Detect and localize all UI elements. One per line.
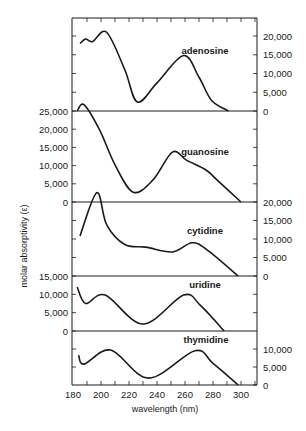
y-tick-label: 15,000 [263, 49, 292, 60]
y-tick-label: 15,000 [39, 271, 68, 282]
y-tick-label: 0 [263, 271, 268, 282]
spectrum-curve-adenosine [80, 31, 228, 111]
curve-label-cytidine: cytidine [187, 225, 223, 236]
curve-label-guanosine: guanosine [181, 146, 229, 157]
spectra-panels: 05,00010,00015,00020,000adenosine05,0001… [39, 31, 292, 391]
y-tick-label: 10,000 [39, 289, 68, 300]
y-tick-label: 20,000 [263, 31, 292, 42]
x-axis: 180200220240260280300 [65, 381, 255, 400]
x-tick-label: 260 [177, 389, 193, 400]
x-axis-title: wavelength (nm) [131, 404, 199, 414]
x-tick-label: 240 [149, 389, 165, 400]
y-tick-label: 10,000 [263, 234, 292, 245]
y-tick-label: 0 [63, 197, 68, 208]
panel-adenosine: 05,00010,00015,00020,000adenosine [72, 31, 292, 117]
spectrum-curve-thymidine [79, 350, 239, 385]
absorption-spectra-chart: 05,00010,00015,00020,000adenosine05,0001… [0, 0, 306, 431]
y-tick-label: 25,000 [39, 106, 68, 117]
y-tick-label: 10,000 [39, 160, 68, 171]
x-tick-label: 200 [93, 389, 109, 400]
y-tick-label: 10,000 [263, 344, 292, 355]
spectrum-curve-uridine [77, 287, 224, 331]
y-tick-label: 5,000 [263, 252, 287, 263]
y-tick-label: 5,000 [263, 362, 287, 373]
y-tick-label: 0 [263, 380, 268, 391]
y-tick-label: 0 [63, 326, 68, 337]
y-tick-label: 5,000 [44, 307, 68, 318]
curve-label-thymidine: thymidine [184, 334, 229, 345]
y-tick-label: 15,000 [39, 142, 68, 153]
y-axis-title: molar absorptivity (ε) [19, 204, 29, 287]
x-tick-label: 300 [233, 389, 249, 400]
y-tick-label: 15,000 [263, 215, 292, 226]
panel-thymidine: 05,00010,000thymidine [72, 334, 292, 391]
y-tick-label: 5,000 [44, 178, 68, 189]
y-tick-label: 0 [263, 106, 268, 117]
panel-cytidine: 05,00010,00015,00020,000cytidine [72, 193, 292, 282]
curve-label-adenosine: adenosine [182, 45, 229, 56]
x-tick-label: 280 [205, 389, 221, 400]
curve-label-uridine: uridine [189, 279, 221, 290]
y-tick-label: 20,000 [39, 124, 68, 135]
y-tick-label: 5,000 [263, 87, 287, 98]
x-tick-label: 180 [65, 389, 81, 400]
y-tick-label: 20,000 [263, 197, 292, 208]
y-tick-label: 10,000 [263, 68, 292, 79]
x-tick-label: 220 [121, 389, 137, 400]
